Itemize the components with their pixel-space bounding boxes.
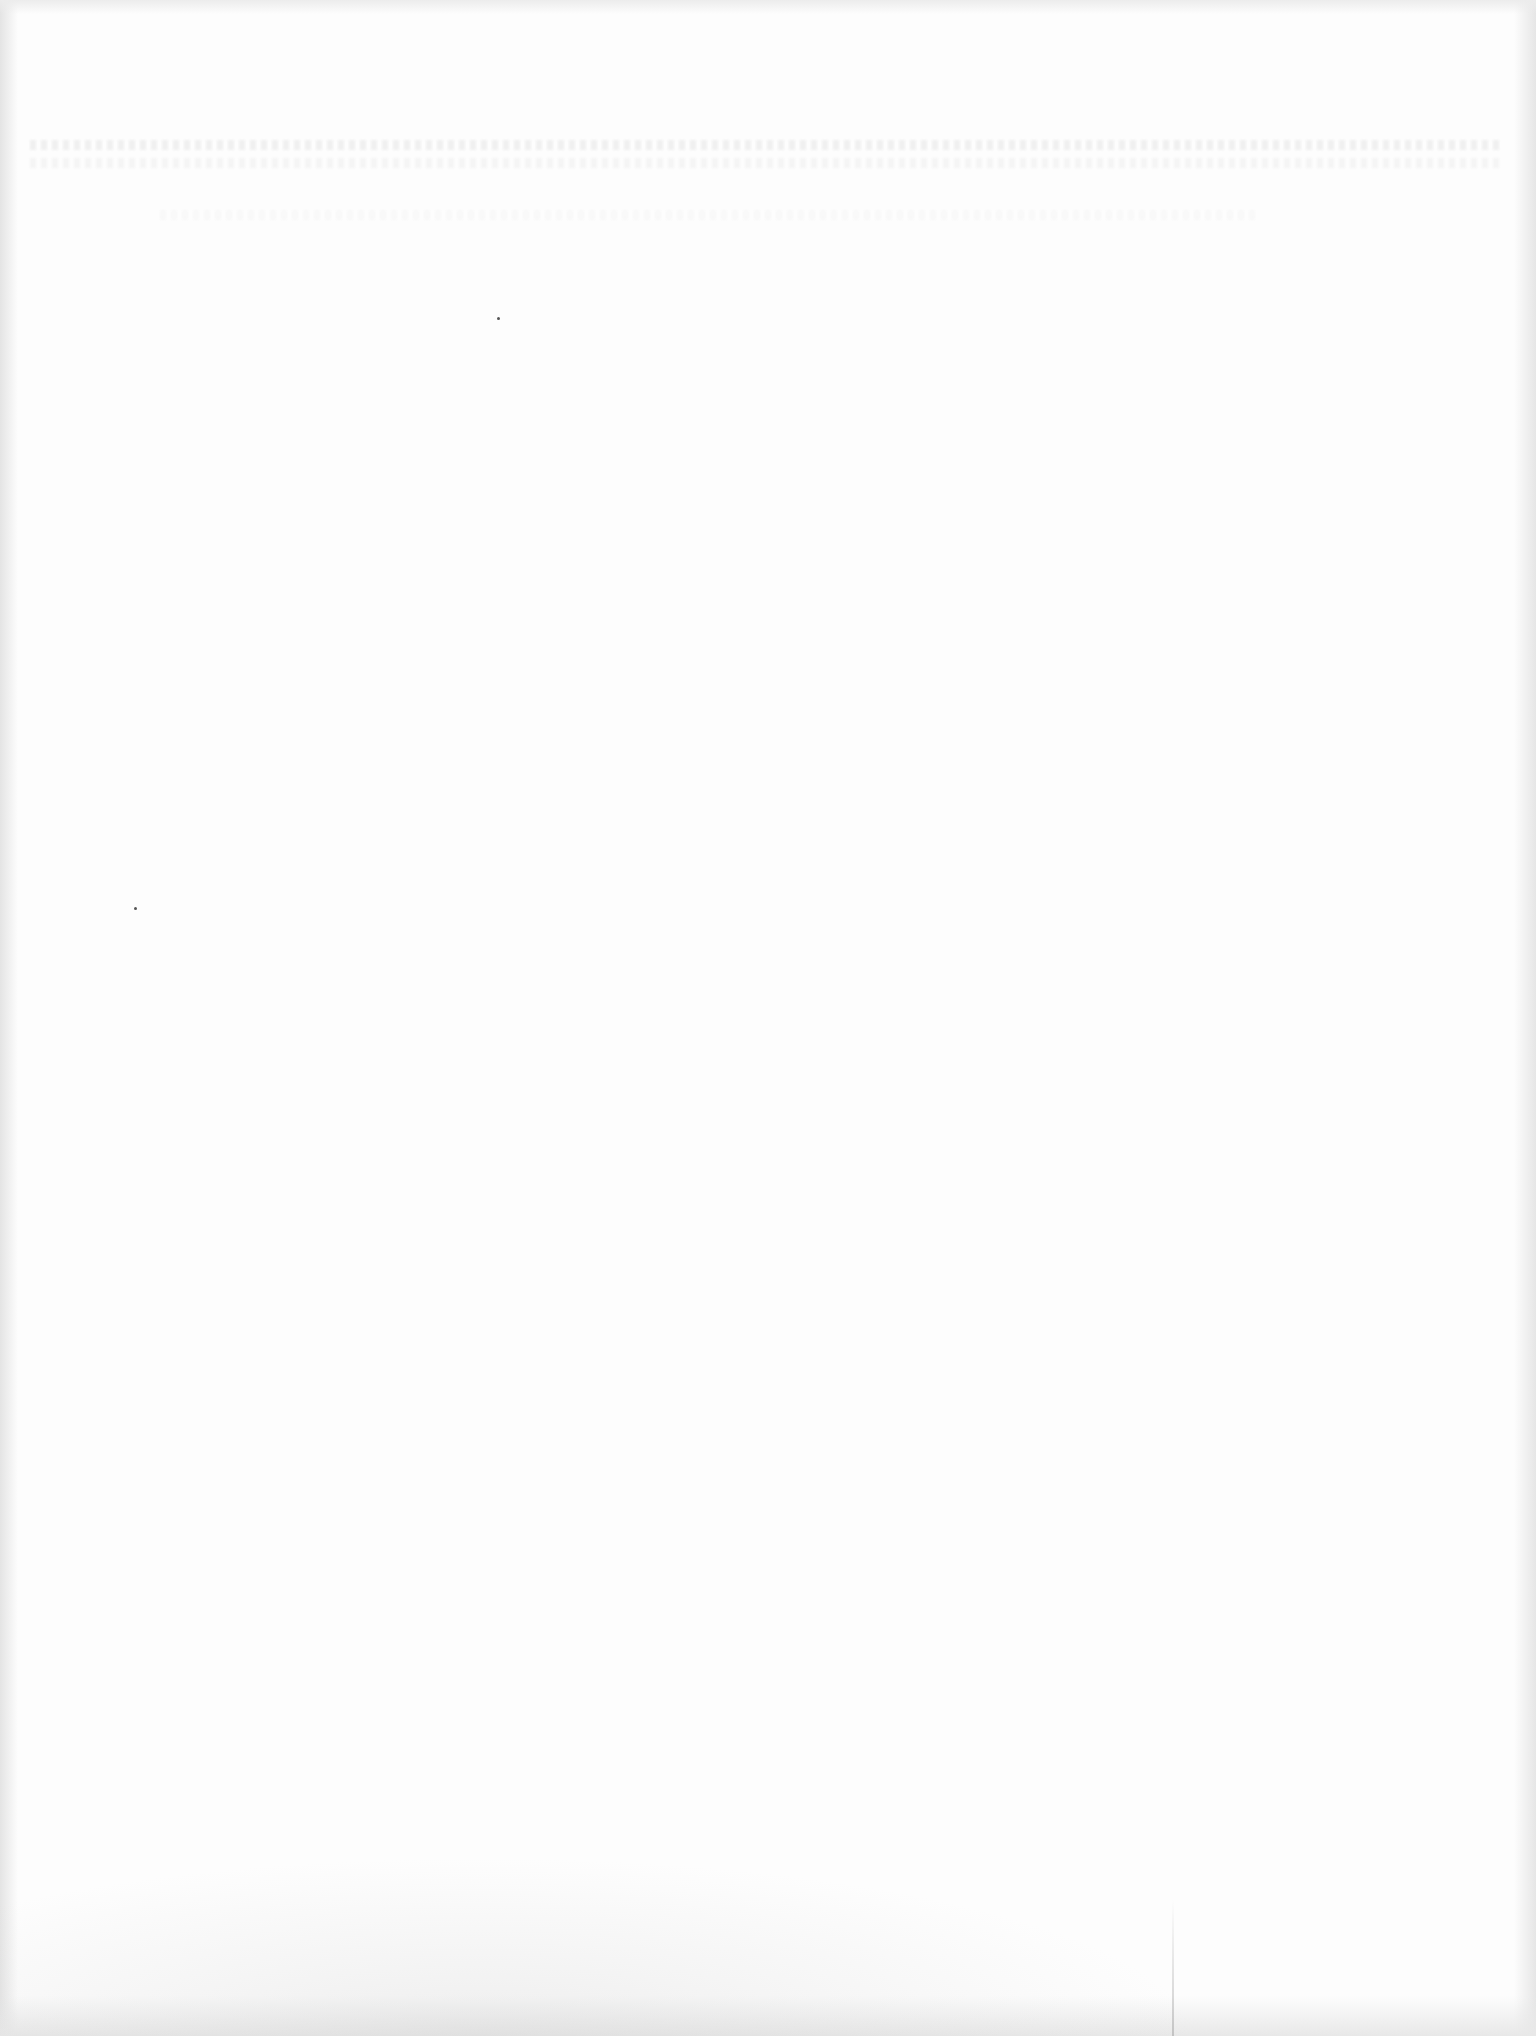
dust-speck xyxy=(134,907,137,910)
bleed-through-band xyxy=(160,210,1260,220)
scanned-blank-page xyxy=(0,0,1536,2036)
scan-edge-shadow-left xyxy=(0,0,18,2036)
paper-crease-mark xyxy=(1172,1900,1174,2036)
scan-edge-shadow-right xyxy=(1514,0,1536,2036)
bleed-through-band xyxy=(30,140,1500,150)
scan-noise-region xyxy=(0,1856,1200,2036)
dust-speck xyxy=(497,317,500,320)
scan-edge-shadow-top xyxy=(0,0,1536,14)
bleed-through-band xyxy=(30,158,1500,168)
